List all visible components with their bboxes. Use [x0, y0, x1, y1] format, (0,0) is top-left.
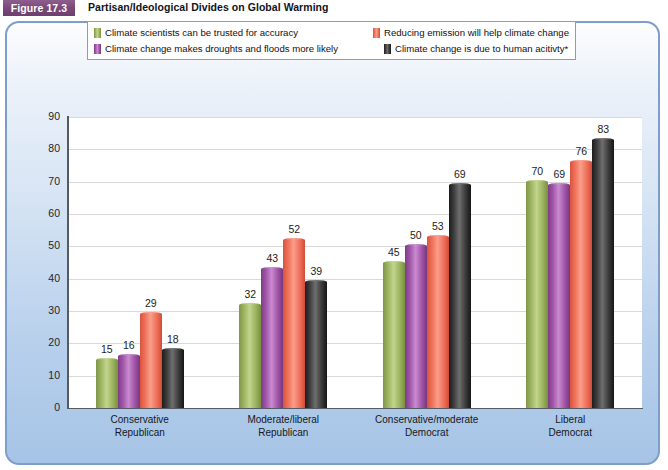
legend-swatch-green-icon: [94, 28, 101, 38]
legend-row-2: Climate change makes droughts and floods…: [94, 41, 569, 57]
legend-item-human-activity: Climate change is due to human acitivty*: [384, 41, 568, 57]
figure-title: Partisan/Ideological Divides on Global W…: [88, 1, 329, 13]
legend-label: Climate scientists can be trusted for ac…: [105, 27, 298, 39]
figure-header: Figure 17.3 Partisan/Ideological Divides…: [0, 0, 668, 18]
legend-label: Climate change is due to human acitivty*: [395, 43, 568, 55]
figure-container: Figure 17.3 Partisan/Ideological Divides…: [0, 0, 668, 470]
legend-swatch-purple-icon: [94, 44, 101, 54]
chart-panel: [5, 21, 660, 465]
chart-legend: Climate scientists can be trusted for ac…: [87, 21, 576, 60]
legend-item-droughts-floods: Climate change makes droughts and floods…: [94, 41, 384, 57]
figure-number-badge: Figure 17.3: [3, 0, 75, 16]
legend-item-climate-scientists-trusted: Climate scientists can be trusted for ac…: [94, 25, 373, 41]
legend-swatch-red-icon: [373, 28, 380, 38]
legend-item-reducing-emission: Reducing emission will help climate chan…: [373, 25, 569, 41]
legend-label: Reducing emission will help climate chan…: [384, 27, 569, 39]
legend-row-1: Climate scientists can be trusted for ac…: [94, 25, 569, 41]
legend-label: Climate change makes droughts and floods…: [105, 43, 338, 55]
legend-swatch-gray-icon: [384, 44, 391, 54]
